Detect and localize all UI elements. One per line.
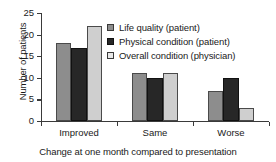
bar-worse-series-1	[223, 78, 239, 121]
y-tick-label: 10	[23, 72, 34, 83]
x-category-label: Worse	[191, 127, 271, 138]
y-tick-label: 5	[29, 93, 34, 104]
bar-improved-series-2	[87, 26, 103, 121]
legend-item: Physical condition (patient)	[107, 35, 235, 47]
legend-item: Life quality (patient)	[107, 21, 235, 33]
legend-label: Physical condition (patient)	[119, 36, 230, 47]
chart-legend: Life quality (patient)Physical condition…	[107, 21, 235, 63]
x-category-label: Improved	[39, 127, 119, 138]
bar-worse-series-0	[208, 91, 224, 121]
bar-same-series-1	[147, 78, 163, 121]
x-tick	[193, 122, 194, 126]
bar-improved-series-0	[56, 43, 72, 121]
x-tick	[117, 122, 118, 126]
x-axis-title: Change at one month compared to presenta…	[0, 146, 276, 157]
legend-label: Overall condition (physician)	[119, 50, 235, 61]
y-tick-label: 0	[29, 115, 34, 126]
x-category-label: Same	[115, 127, 195, 138]
bar-same-series-0	[132, 73, 148, 121]
x-axis-line	[41, 121, 269, 122]
bar-improved-series-1	[71, 48, 87, 121]
bar-worse-series-2	[239, 108, 255, 121]
legend-label: Life quality (patient)	[119, 22, 200, 33]
y-tick-label: 15	[23, 50, 34, 61]
bar-same-series-2	[163, 73, 179, 121]
y-tick-label: 20	[23, 29, 34, 40]
y-tick-label: 25	[23, 7, 34, 18]
bar-chart: Number of patients 0510152025 ImprovedSa…	[0, 0, 276, 162]
legend-swatch-icon	[107, 38, 114, 45]
legend-swatch-icon	[107, 52, 114, 59]
x-tick	[269, 122, 270, 126]
legend-item: Overall condition (physician)	[107, 49, 235, 61]
y-axis-title: Number of patients	[17, 2, 28, 122]
x-tick	[41, 122, 42, 126]
legend-swatch-icon	[107, 24, 114, 31]
